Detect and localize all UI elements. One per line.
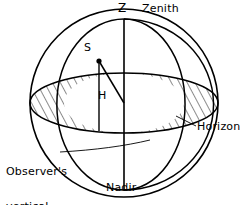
celestial-sphere-figure: Z Zenith S H Horizon Observer's vertical… xyxy=(0,0,247,205)
observers-vertical-label: Observer's vertical xyxy=(6,143,67,205)
observers-vertical-label-line2: vertical xyxy=(6,201,67,205)
observers-vertical-label-line1: Observer's xyxy=(6,166,67,178)
altitude-angle-label: H xyxy=(98,90,106,102)
star-point-label: S xyxy=(84,42,91,54)
star-point-marker xyxy=(96,58,101,63)
zenith-point-label: Z xyxy=(118,2,126,15)
meridian-arc-front xyxy=(124,19,185,190)
horizon-label: Horizon xyxy=(197,121,240,133)
zenith-name-label: Zenith xyxy=(142,3,179,15)
nadir-label: Nadir xyxy=(106,182,137,194)
observers-vertical-leader-line xyxy=(60,140,150,152)
